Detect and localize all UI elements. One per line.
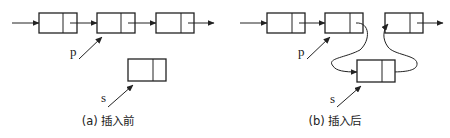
- pointer-p-label: p: [298, 44, 305, 59]
- panel-after: p s (b) 插入后: [240, 13, 443, 128]
- new-node-s: [128, 59, 166, 81]
- pointer-s-label: s: [101, 90, 106, 105]
- pointer-s-arrow-icon: [108, 85, 133, 107]
- insertion-diagram: p s (a) 插入前 p: [0, 0, 450, 138]
- panel-before: p s (a) 插入前: [12, 13, 214, 128]
- caption-after: (b) 插入后: [309, 114, 362, 128]
- new-node-s: [357, 60, 395, 82]
- caption-before: (a) 插入前: [82, 114, 135, 128]
- pointer-s-label: s: [330, 91, 335, 106]
- pointer-p-label: p: [70, 44, 77, 59]
- pointer-p-arrow-icon: [79, 37, 102, 59]
- pointer-s-arrow-icon: [337, 86, 361, 107]
- pointer-p-arrow-icon: [307, 37, 330, 59]
